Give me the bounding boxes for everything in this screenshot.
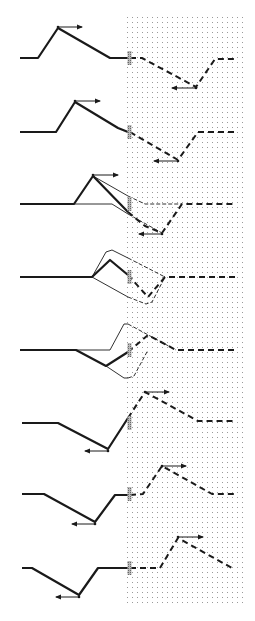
string-solid [22,494,128,522]
string-solid [20,176,128,212]
string-solid [20,102,128,132]
medium-region-dotted [125,15,245,605]
fixed-end-wall [128,416,132,430]
string-solid [20,28,128,58]
string-solid [20,350,128,366]
string-solid [20,260,128,277]
thin-lower-pulse [92,277,128,297]
fixed-end-wall [128,51,132,65]
fixed-end-wall [128,561,132,575]
string-solid [22,568,128,595]
thin-lower-pulse [106,366,128,378]
reflection-diagram [0,0,255,621]
string-solid [22,418,128,449]
fixed-end-wall [128,487,132,501]
thin-inverted-pulse [74,204,128,214]
fixed-end-wall [128,197,132,211]
diagram-canvas [0,0,255,621]
thin-upper-pulse [76,324,128,350]
fixed-end-wall [128,343,132,357]
fixed-end-wall [128,125,132,139]
fixed-end-wall [128,270,132,284]
